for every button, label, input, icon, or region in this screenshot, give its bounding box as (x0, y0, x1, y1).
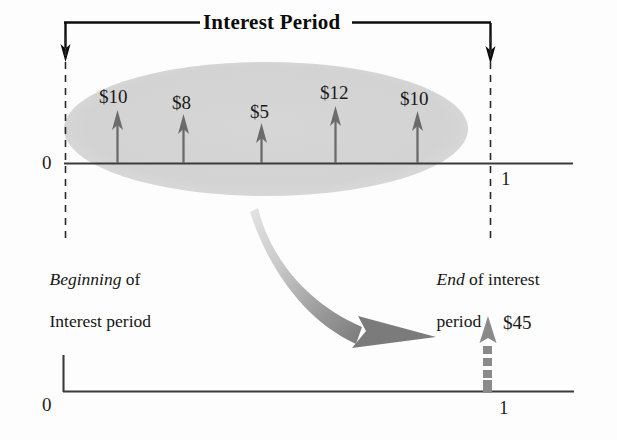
bottom-timeline-start-tick-label: 0 (42, 394, 52, 416)
end-rest: of interest (465, 269, 540, 289)
beginning-of-period-note: Beginning of Interest period (32, 248, 151, 353)
diagram-canvas (0, 0, 617, 440)
bottom-timeline-end-tick-label: 1 (499, 397, 509, 419)
cash-flow-label-2: $8 (172, 92, 191, 114)
cash-flow-label-4: $12 (320, 82, 349, 104)
cash-flow-label-1: $10 (99, 86, 128, 108)
cash-flow-label-3: $5 (250, 101, 269, 123)
beginning-rest: of (121, 269, 140, 289)
interest-period-diagram: Interest Period $10 $8 $5 $12 $10 0 1 Be… (0, 0, 617, 440)
end-of-period-note: End of interest period (419, 248, 540, 353)
end-emphasis: End (437, 269, 465, 289)
beginning-line2: Interest period (50, 311, 152, 331)
cash-flow-grouping-ellipse (64, 62, 468, 196)
top-timeline-end-tick-label: 1 (501, 168, 511, 190)
end-line2: period (437, 311, 482, 331)
cash-flow-label-5: $10 (400, 88, 429, 110)
future-worth-label: $45 (503, 312, 532, 334)
top-timeline-start-tick-label: 0 (42, 152, 52, 174)
page-title: Interest Period (203, 10, 340, 35)
bottom-timeline-axis (63, 355, 574, 392)
equivalence-curved-arrow (250, 208, 436, 348)
beginning-emphasis: Beginning (50, 269, 122, 289)
